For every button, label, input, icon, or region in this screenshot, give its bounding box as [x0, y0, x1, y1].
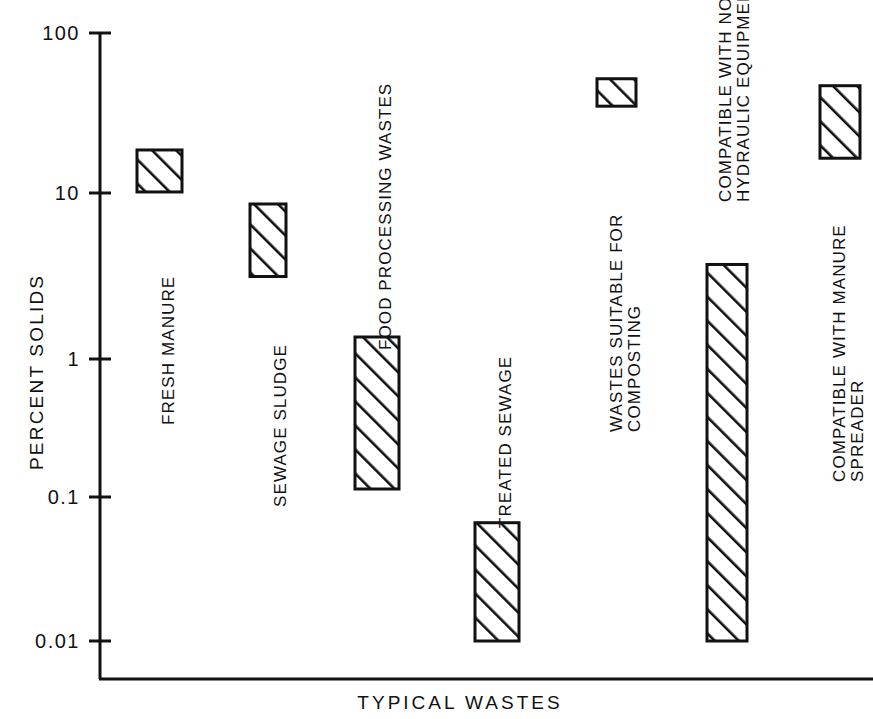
chart-bar-label: FRESH MANURE [160, 276, 178, 425]
chart-bar-label: TREATED SEWAGE [497, 356, 515, 528]
chart-bar-label: SEWAGE SLUDGE [272, 344, 290, 507]
chart-bar-hatch [475, 523, 519, 641]
chart-bar [820, 86, 860, 159]
chart-bar [707, 264, 747, 641]
chart-bar-label-line: HYDRAULIC EQUIPMENT [735, 0, 753, 202]
chart-y-tick-label: 1 [67, 348, 80, 371]
chart-y-tick-label: 0.01 [35, 630, 80, 653]
chart-bar [137, 150, 182, 192]
chart-bar [355, 337, 399, 489]
chart-bar [250, 204, 286, 277]
chart-y-tick-label: 100 [42, 22, 80, 45]
chart-figure: 1001010.10.01 PERCENT SOLIDS TYPICAL WAS… [0, 0, 873, 719]
chart-bar-label-line: FRESH MANURE [160, 276, 178, 425]
chart-x-axis-title: TYPICAL WASTES [357, 692, 562, 714]
chart-bar-label-line: COMPATIBLE WITH NORMAL [717, 0, 735, 202]
chart-bar-label: COMPATIBLE WITH MANURESPREADER [831, 224, 868, 482]
chart-bar-hatch [707, 264, 747, 641]
chart-bar-hatch [137, 150, 182, 192]
chart-bar-label-line: FOOD PROCESSING WASTES [377, 83, 395, 350]
chart-bar [597, 79, 636, 106]
chart-bar-hatch [597, 79, 636, 106]
chart-bar-label-line: COMPATIBLE WITH MANURE [831, 224, 849, 482]
chart-bar-hatch [250, 204, 286, 277]
chart-bar-label-line: SEWAGE SLUDGE [272, 344, 290, 507]
chart-bar-hatch [820, 86, 860, 159]
chart-y-axis-title: PERCENT SOLIDS [26, 274, 48, 470]
chart-y-tick-label: 0.1 [48, 486, 80, 509]
chart-bar-label-line: WASTES SUITABLE FOR [608, 214, 626, 432]
chart-bar-label: WASTES SUITABLE FORCOMPOSTING [608, 214, 645, 432]
chart-bar [475, 523, 519, 641]
chart-bar-label: COMPATIBLE WITH NORMALHYDRAULIC EQUIPMEN… [717, 0, 754, 202]
chart-y-tick-label: 10 [55, 182, 80, 205]
chart-bar-label: FOOD PROCESSING WASTES [377, 83, 395, 350]
chart-bar-hatch [355, 337, 399, 489]
chart-bar-label-line: TREATED SEWAGE [497, 356, 515, 528]
chart-bar-label-line: SPREADER [849, 224, 867, 482]
chart-bar-label-line: COMPOSTING [626, 214, 644, 432]
